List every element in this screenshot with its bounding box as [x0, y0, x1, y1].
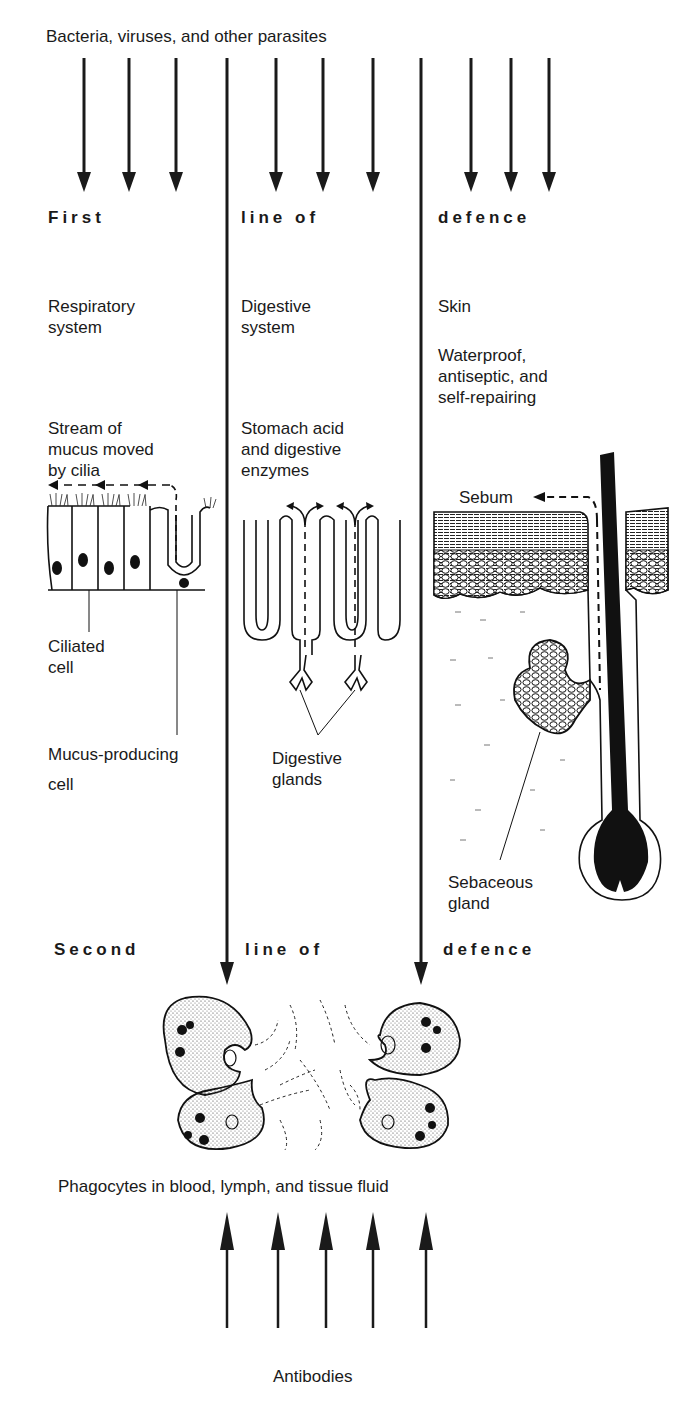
sebum-label: Sebum — [459, 487, 513, 508]
respiratory-system-label: Respiratory system — [48, 296, 135, 338]
phagocytes — [164, 997, 460, 1149]
digestive-glands — [244, 506, 400, 690]
antibodies-caption: Antibodies — [273, 1366, 352, 1387]
skin-label: Skin — [438, 296, 471, 317]
heading-second-line-of: line of — [245, 940, 323, 960]
heading-line-of: line of — [241, 208, 319, 228]
mucus-stream-label: Stream of mucus moved by cilia — [48, 418, 154, 481]
heading-first: First — [48, 208, 105, 228]
mucus-producing-cell-label: Mucus-producing cell — [48, 740, 178, 800]
stomach-acid-label: Stomach acid and digestive enzymes — [241, 418, 344, 481]
incoming-arrows — [84, 58, 549, 175]
sebaceous-gland-label: Sebaceous gland — [448, 872, 533, 914]
skin-section — [434, 452, 668, 900]
heading-defence: defence — [438, 208, 530, 228]
skin-property-label: Waterproof, antiseptic, and self-repairi… — [438, 345, 548, 408]
heading-second: Second — [54, 940, 139, 960]
digestive-glands-label: Digestive glands — [272, 748, 342, 790]
heading-second-defence: defence — [443, 940, 535, 960]
diagram-title: Bacteria, viruses, and other parasites — [46, 26, 327, 47]
phagocytes-caption: Phagocytes in blood, lymph, and tissue f… — [58, 1176, 389, 1197]
bacteria-fragments — [255, 1000, 370, 1150]
ciliated-cell-label: Ciliated cell — [48, 636, 105, 678]
digestive-system-label: Digestive system — [241, 296, 311, 338]
